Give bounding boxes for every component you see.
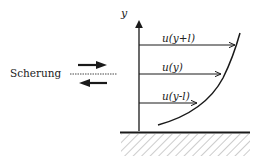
shear-arrow-left-icon (79, 79, 107, 87)
ground-hatching (121, 134, 250, 156)
velocity-label-middle: u(y) (162, 61, 183, 73)
y-axis-label: y (120, 7, 128, 20)
shear-arrow-right-icon (78, 61, 107, 69)
velocity-label-lower: u(y-l) (162, 90, 190, 102)
shear-velocity-profile-diagram: y u(y+l) u(y) u(y-l) Scherung (0, 0, 262, 161)
velocity-profile-curve (158, 33, 240, 125)
velocity-label-upper: u(y+l) (162, 32, 195, 44)
shear-label: Scherung (10, 67, 62, 79)
